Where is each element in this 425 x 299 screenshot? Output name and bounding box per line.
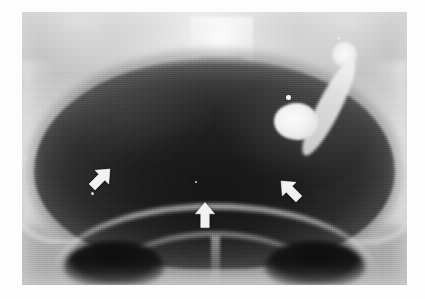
annotation-arrow-left (86, 163, 116, 193)
annotation-arrow-right (275, 175, 305, 205)
radiograph-image (22, 12, 407, 285)
film-grain-overlay (22, 12, 407, 285)
figure-root (0, 0, 425, 299)
figure-caption (232, 285, 352, 296)
annotation-arrow-center (190, 200, 220, 230)
